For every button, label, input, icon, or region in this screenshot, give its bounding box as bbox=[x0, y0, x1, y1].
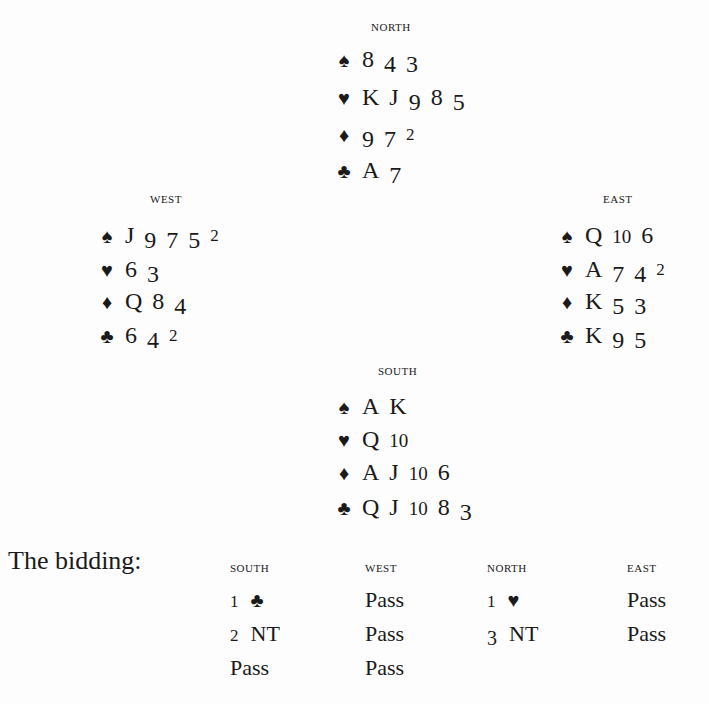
bidding-title: The bidding: bbox=[8, 546, 142, 576]
bid-west-1: Pass bbox=[365, 584, 404, 618]
diamond-icon: ♦ bbox=[333, 461, 355, 485]
north-clubs-cards: A7 bbox=[362, 157, 411, 183]
north-spades-cards: 843 bbox=[362, 46, 428, 72]
west-hearts-cards: 63 bbox=[125, 256, 169, 282]
card-rank: A bbox=[362, 393, 379, 419]
bid-north-1: 1♥ bbox=[487, 584, 538, 618]
card-rank: K bbox=[362, 84, 379, 110]
card-rank: 7 bbox=[166, 227, 178, 253]
bidding-header-east: EAST bbox=[627, 554, 666, 584]
bid-south-3: Pass bbox=[230, 652, 280, 686]
card-rank: K bbox=[585, 288, 602, 314]
south-label: SOUTH bbox=[378, 362, 417, 379]
card-rank: 10 bbox=[409, 461, 428, 487]
club-icon: ♣ bbox=[251, 589, 264, 611]
heart-icon: ♥ bbox=[333, 86, 355, 110]
north-label: NORTH bbox=[371, 18, 411, 35]
bidding-column-south: SOUTH 1♣ 2NT Pass bbox=[230, 554, 280, 686]
bidding-column-west: WEST Pass Pass Pass bbox=[365, 554, 404, 686]
bid-east-2: Pass bbox=[627, 618, 666, 652]
bid-south-1: 1♣ bbox=[230, 584, 280, 618]
card-rank: 8 bbox=[431, 84, 443, 110]
card-rank: 5 bbox=[634, 327, 646, 353]
card-rank: J bbox=[125, 222, 134, 248]
card-rank: 3 bbox=[634, 293, 646, 319]
club-icon: ♣ bbox=[96, 324, 118, 348]
south-clubs-cards: QJ1083 bbox=[362, 494, 482, 522]
card-rank: 9 bbox=[409, 89, 421, 115]
card-rank: 3 bbox=[147, 261, 159, 287]
card-rank: 8 bbox=[362, 46, 374, 72]
north-diamonds-cards: 972 bbox=[362, 121, 425, 150]
card-rank: 8 bbox=[438, 494, 450, 520]
card-rank: Q bbox=[585, 222, 602, 248]
card-rank: 10 bbox=[612, 224, 631, 250]
card-rank: J bbox=[389, 459, 398, 485]
card-rank: 9 bbox=[362, 126, 374, 152]
north-hearts-cards: KJ985 bbox=[362, 84, 475, 110]
south-hearts-cards: Q10 bbox=[362, 426, 418, 454]
card-rank: Q bbox=[362, 494, 379, 520]
heart-icon: ♥ bbox=[333, 428, 355, 452]
west-label: WEST bbox=[150, 190, 182, 207]
card-rank: 2 bbox=[406, 122, 415, 148]
card-rank: 7 bbox=[389, 162, 401, 188]
card-rank: 9 bbox=[612, 327, 624, 353]
card-rank: 3 bbox=[460, 499, 472, 525]
club-icon: ♣ bbox=[333, 159, 355, 183]
card-rank: 5 bbox=[453, 89, 465, 115]
card-rank: 7 bbox=[384, 126, 396, 152]
bid-west-3: Pass bbox=[365, 652, 404, 686]
card-rank: J bbox=[389, 84, 398, 110]
card-rank: 8 bbox=[152, 288, 164, 314]
east-hearts-cards: A742 bbox=[585, 256, 675, 285]
card-rank: 4 bbox=[634, 261, 646, 287]
bid-level: 2 bbox=[230, 626, 239, 645]
card-rank: 10 bbox=[409, 496, 428, 522]
card-rank: K bbox=[389, 393, 406, 419]
card-rank: 3 bbox=[406, 51, 418, 77]
diamond-icon: ♦ bbox=[333, 123, 355, 147]
club-icon: ♣ bbox=[556, 324, 578, 348]
bid-level: 3 bbox=[487, 627, 497, 649]
diamond-icon: ♦ bbox=[556, 290, 578, 314]
card-rank: 5 bbox=[188, 227, 200, 253]
card-rank: 6 bbox=[125, 256, 137, 282]
card-rank: 6 bbox=[125, 322, 137, 348]
bid-south-2: 2NT bbox=[230, 618, 280, 652]
bidding-header-south: SOUTH bbox=[230, 554, 280, 584]
card-rank: 4 bbox=[174, 293, 186, 319]
card-rank: Q bbox=[362, 426, 379, 452]
card-rank: 7 bbox=[612, 261, 624, 287]
bidding-column-east: EAST Pass Pass bbox=[627, 554, 666, 652]
bid-west-2: Pass bbox=[365, 618, 404, 652]
card-rank: A bbox=[362, 157, 379, 183]
card-rank: 9 bbox=[144, 227, 156, 253]
card-rank: 2 bbox=[210, 223, 219, 249]
west-spades-cards: J9752 bbox=[125, 222, 229, 251]
card-rank: 2 bbox=[169, 323, 178, 349]
diamond-icon: ♦ bbox=[96, 290, 118, 314]
card-rank: 10 bbox=[389, 428, 408, 454]
heart-icon: ♥ bbox=[508, 589, 520, 611]
bid-level: 1 bbox=[230, 592, 239, 611]
heart-icon: ♥ bbox=[96, 258, 118, 282]
card-rank: 6 bbox=[641, 222, 653, 248]
card-rank: 4 bbox=[384, 51, 396, 77]
south-diamonds-cards: AJ106 bbox=[362, 459, 460, 487]
bid-denomination: NT bbox=[251, 621, 280, 646]
card-rank: A bbox=[585, 256, 602, 282]
bid-east-1: Pass bbox=[627, 584, 666, 618]
spade-icon: ♠ bbox=[333, 395, 355, 419]
card-rank: J bbox=[389, 494, 398, 520]
card-rank: K bbox=[585, 322, 602, 348]
card-rank: 2 bbox=[656, 257, 665, 283]
bidding-column-north: NORTH 1♥ 3NT bbox=[487, 554, 538, 652]
east-spades-cards: Q106 bbox=[585, 222, 663, 250]
east-label: EAST bbox=[603, 190, 633, 207]
south-spades-cards: AK bbox=[362, 393, 417, 419]
club-icon: ♣ bbox=[333, 496, 355, 520]
card-rank: 6 bbox=[438, 459, 450, 485]
bidding-header-north: NORTH bbox=[487, 554, 538, 584]
card-rank: A bbox=[362, 459, 379, 485]
